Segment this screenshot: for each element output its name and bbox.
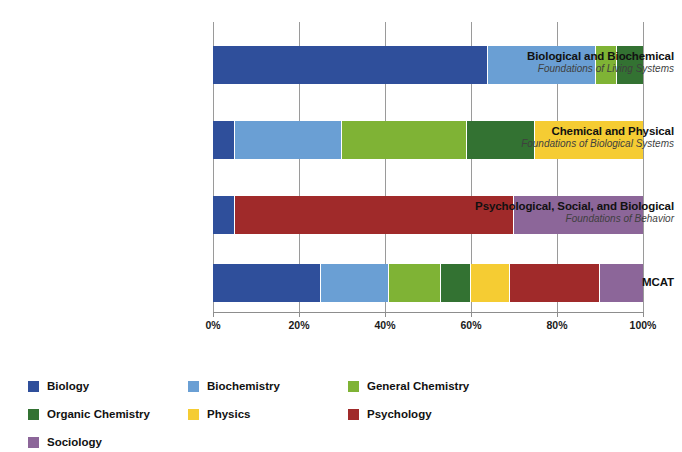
bar-segment-general-chemistry: [342, 121, 467, 159]
tick-mark-20: [299, 312, 300, 317]
x-tick-label-0: 0%: [205, 319, 220, 331]
bar-segment-biochemistry: [321, 264, 390, 302]
y-axis-label: Chemical and PhysicalFoundations of Biol…: [474, 124, 682, 151]
y-axis-label-primary: Chemical and Physical: [474, 124, 674, 138]
y-axis-label-secondary: Foundations of Biological Systems: [474, 138, 674, 151]
legend-label: Physics: [207, 408, 250, 420]
y-axis-label: MCAT: [474, 275, 682, 289]
x-tick-label-60: 60%: [460, 319, 481, 331]
legend-item-sociology[interactable]: Sociology: [28, 428, 188, 452]
legend-label: General Chemistry: [367, 380, 469, 392]
x-axis-baseline: [213, 312, 644, 313]
bar-segment-biology: [213, 196, 235, 234]
legend-item-physics[interactable]: Physics: [188, 400, 348, 428]
legend-swatch-icon: [188, 409, 199, 420]
legend-swatch-icon: [28, 409, 39, 420]
tick-mark-80: [557, 312, 558, 317]
legend-item-biology[interactable]: Biology: [28, 372, 188, 400]
y-axis-label-secondary: Foundations of Behavior: [474, 213, 674, 226]
y-axis-label-primary: Biological and Biochemical: [474, 49, 674, 63]
tick-mark-100: [643, 312, 644, 317]
legend-swatch-icon: [188, 381, 199, 392]
legend-label: Biology: [47, 380, 89, 392]
y-axis-label: Biological and BiochemicalFoundations of…: [474, 49, 682, 76]
tick-mark-60: [471, 312, 472, 317]
y-axis-label-primary: MCAT: [474, 275, 674, 289]
bar-segment-biology: [213, 264, 321, 302]
chart-legend: BiologyBiochemistryGeneral ChemistryOrga…: [28, 372, 658, 452]
y-axis-label: Psychological, Social, and BiologicalFou…: [474, 199, 682, 226]
y-axis-label-primary: Psychological, Social, and Biological: [474, 199, 674, 213]
bar-segment-organic-chemistry: [441, 264, 471, 302]
legend-swatch-icon: [28, 437, 39, 448]
bar-segment-psychology: [235, 196, 515, 234]
y-axis-label-secondary: Foundations of Living Systems: [474, 63, 674, 76]
legend-swatch-icon: [348, 381, 359, 392]
tick-mark-0: [213, 312, 214, 317]
bar-segment-biology: [213, 46, 488, 84]
legend-item-psychology[interactable]: Psychology: [348, 400, 508, 428]
bar-segment-general-chemistry: [389, 264, 441, 302]
bar-segment-biology: [213, 121, 235, 159]
bar-segment-biochemistry: [235, 121, 343, 159]
legend-item-general-chemistry[interactable]: General Chemistry: [348, 372, 508, 400]
legend-swatch-icon: [348, 409, 359, 420]
legend-item-organic-chemistry[interactable]: Organic Chemistry: [28, 400, 188, 428]
x-tick-label-100: 100%: [630, 319, 657, 331]
legend-label: Sociology: [47, 436, 102, 448]
x-tick-label-40: 40%: [374, 319, 395, 331]
x-tick-label-20: 20%: [288, 319, 309, 331]
legend-label: Biochemistry: [207, 380, 280, 392]
x-tick-label-80: 80%: [546, 319, 567, 331]
tick-mark-40: [385, 312, 386, 317]
legend-label: Psychology: [367, 408, 432, 420]
legend-label: Organic Chemistry: [47, 408, 150, 420]
legend-item-biochemistry[interactable]: Biochemistry: [188, 372, 348, 400]
legend-swatch-icon: [28, 381, 39, 392]
